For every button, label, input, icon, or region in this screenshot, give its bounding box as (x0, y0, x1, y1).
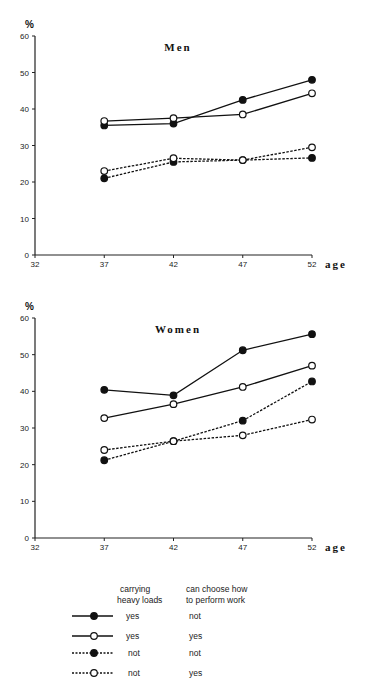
y-tick-label: 20 (20, 178, 29, 187)
open-marker (309, 362, 316, 369)
open-marker (170, 115, 177, 122)
legend-col2-value: not (189, 648, 201, 658)
series-line (104, 93, 312, 121)
series-line (104, 158, 312, 178)
open-marker (309, 90, 316, 97)
legend-item: notyes (72, 668, 202, 678)
y-tick-label: 0 (25, 534, 30, 543)
filled-marker (101, 387, 108, 394)
y-axis-label: % (25, 19, 34, 30)
open-marker (170, 155, 177, 162)
y-tick-label: 60 (20, 314, 29, 323)
legend-header-col2: to perform work (186, 595, 246, 605)
filled-marker (101, 175, 108, 182)
x-tick-label: 37 (100, 543, 109, 552)
chart-title: Men (164, 41, 191, 53)
open-marker (91, 670, 98, 677)
y-tick-label: 40 (20, 387, 29, 396)
open-marker (239, 157, 246, 164)
open-marker (91, 633, 98, 640)
open-marker (101, 415, 108, 422)
x-axis-label: age (325, 541, 347, 553)
open-marker (239, 432, 246, 439)
series-line (104, 420, 312, 450)
x-tick-label: 47 (238, 260, 247, 269)
y-axis-label: % (25, 301, 34, 312)
open-marker (101, 118, 108, 125)
x-tick-label: 42 (169, 543, 178, 552)
x-tick-label: 42 (169, 260, 178, 269)
y-tick-label: 30 (20, 424, 29, 433)
open-marker (309, 416, 316, 423)
chart-men: 01020304050603237424752%ageMen (20, 19, 347, 270)
x-tick-label: 37 (100, 260, 109, 269)
filled-marker (309, 378, 316, 385)
y-tick-label: 0 (25, 251, 30, 260)
filled-marker (239, 347, 246, 354)
chart-title: Women (155, 323, 201, 335)
open-marker (170, 401, 177, 408)
legend-col2-value: not (189, 611, 201, 621)
open-marker (239, 111, 246, 118)
x-tick-label: 32 (31, 260, 40, 269)
open-marker (309, 144, 316, 151)
legend-col2-value: yes (189, 668, 202, 678)
open-marker (170, 438, 177, 445)
y-tick-label: 10 (20, 497, 29, 506)
filled-marker (309, 331, 316, 338)
filled-marker (239, 417, 246, 424)
legend-col1-value: yes (126, 631, 139, 641)
legend-col1-value: not (128, 668, 140, 678)
x-tick-label: 52 (308, 543, 317, 552)
x-tick-label: 47 (238, 543, 247, 552)
x-tick-label: 32 (31, 543, 40, 552)
series-line (104, 147, 312, 171)
y-tick-label: 60 (20, 32, 29, 41)
legend-col2-value: yes (189, 631, 202, 641)
figure: 01020304050603237424752%ageMen0102030405… (0, 0, 369, 700)
y-tick-label: 20 (20, 461, 29, 470)
open-marker (239, 384, 246, 391)
legend-header-col1: heavy loads (117, 595, 162, 605)
legend-item: yesyes (72, 631, 202, 641)
chart-women: 01020304050603237424752%ageWomen (20, 301, 347, 553)
legend-item: yesnot (72, 611, 201, 621)
open-marker (101, 168, 108, 175)
y-tick-label: 50 (20, 351, 29, 360)
y-tick-label: 10 (20, 215, 29, 224)
y-tick-label: 40 (20, 105, 29, 114)
legend-col1-value: yes (126, 611, 139, 621)
legend-header-col1: carrying (120, 584, 151, 594)
open-marker (101, 447, 108, 454)
filled-marker (309, 77, 316, 84)
y-tick-label: 30 (20, 142, 29, 151)
legend: carryingheavy loadscan choose howto perf… (72, 584, 248, 678)
x-tick-label: 52 (308, 260, 317, 269)
filled-marker (91, 650, 98, 657)
legend-col1-value: not (128, 648, 140, 658)
filled-marker (91, 613, 98, 620)
legend-header-col2: can choose how (186, 584, 248, 594)
filled-marker (101, 457, 108, 464)
filled-marker (170, 392, 177, 399)
filled-marker (239, 97, 246, 104)
series-line (104, 381, 312, 460)
legend-item: notnot (72, 648, 201, 658)
filled-marker (309, 155, 316, 162)
x-axis-label: age (325, 258, 347, 270)
y-tick-label: 50 (20, 69, 29, 78)
series-line (104, 334, 312, 395)
